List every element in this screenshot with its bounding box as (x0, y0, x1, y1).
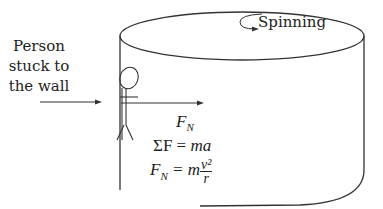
cylinder-top (120, 12, 364, 60)
normal-force-arrow (197, 101, 204, 106)
cylinder-right-wall (200, 36, 364, 206)
centripetal-equation: FN = mv²r (150, 158, 212, 185)
normal-force-label: FN (176, 112, 194, 133)
person-label-line: Person (8, 36, 70, 56)
person-label: Person stuck to the wall (8, 36, 70, 96)
newton-second-law: ΣF = ma (153, 136, 211, 156)
label-pointer-arrow (95, 100, 102, 105)
person-label-line: stuck to (8, 56, 70, 76)
person-label-line: the wall (8, 76, 70, 96)
spinning-label: Spinning (258, 12, 326, 32)
